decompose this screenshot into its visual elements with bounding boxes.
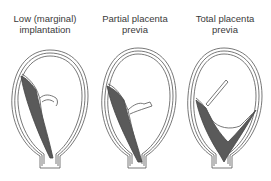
placenta-previa-diagram (0, 0, 271, 181)
uterus-panel-partial (102, 48, 176, 168)
umbilical-cord (128, 102, 152, 114)
umbilical-cord (40, 95, 58, 106)
uterus-panel-total (188, 48, 262, 168)
umbilical-cord (206, 80, 228, 106)
uterus-panel-low-marginal (12, 50, 88, 168)
